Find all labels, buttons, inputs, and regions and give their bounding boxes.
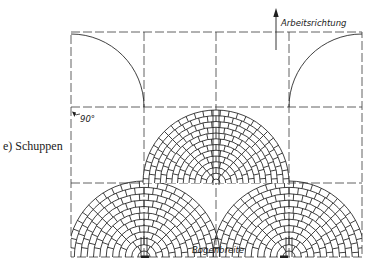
fan-joint — [248, 193, 251, 198]
fan-joint — [314, 252, 320, 253]
direction-label: Arbeitsrichtung — [280, 18, 347, 28]
fan-joint — [125, 224, 128, 230]
fan-joint — [284, 207, 285, 213]
fan-joint — [135, 188, 136, 194]
fan-joint — [185, 239, 191, 241]
fan-joint — [162, 235, 166, 239]
fan-joint — [311, 230, 315, 234]
fan-joint — [121, 212, 124, 218]
fan-joint — [322, 198, 325, 203]
fan-joint — [107, 233, 112, 236]
fan-joint — [345, 225, 351, 228]
fan-joint — [138, 246, 141, 252]
fan-joint — [252, 233, 257, 236]
fan-joint — [181, 193, 184, 198]
scale-arcs — [68, 34, 365, 257]
fan-joint — [177, 198, 180, 203]
fan-joint — [350, 220, 356, 223]
fan-joint — [155, 229, 158, 235]
fan-joint — [293, 213, 294, 219]
fan-joint — [121, 185, 123, 191]
fan-joint — [301, 208, 303, 214]
fan-joint — [182, 230, 187, 233]
fan-joint — [246, 230, 251, 233]
fan-joint — [237, 221, 242, 225]
fan-joint — [130, 182, 131, 188]
fan-joint — [279, 234, 281, 240]
fan-joint — [196, 217, 201, 221]
fan-joint — [265, 220, 268, 225]
fan-joint — [317, 202, 320, 208]
fan-joint — [313, 207, 316, 213]
fan-joint — [168, 207, 171, 213]
fan-joint — [105, 208, 109, 213]
fan-joint — [125, 190, 127, 196]
fan-joint — [247, 242, 253, 244]
fan-joint — [319, 188, 322, 194]
fan-joint — [218, 229, 224, 231]
fan-joint — [165, 198, 167, 204]
fan-joint — [186, 214, 191, 218]
fan-joint — [102, 218, 107, 222]
fan-joint — [227, 225, 233, 228]
fan-joint — [96, 226, 101, 229]
fan-joint — [156, 215, 158, 221]
fan-joint — [306, 190, 308, 196]
fan-joint — [148, 213, 149, 219]
fan-joint — [107, 223, 112, 227]
fan-joint — [116, 193, 119, 199]
fan-joint — [267, 235, 271, 239]
fan-joint — [293, 207, 294, 213]
fan-joint — [169, 193, 172, 199]
fan-joint — [69, 247, 75, 248]
fan-joint — [166, 230, 170, 234]
fan-joint — [292, 246, 295, 252]
fan-joint — [148, 226, 149, 232]
fan-joint — [73, 229, 79, 231]
fan-joint — [222, 220, 228, 223]
angle-label: 90° — [80, 114, 95, 124]
fan-joint — [327, 230, 332, 233]
fan-joint — [112, 202, 115, 208]
fan-joint — [89, 243, 95, 245]
fan-joint — [234, 205, 239, 209]
fan-joint — [229, 238, 235, 240]
fan-joint — [152, 201, 153, 207]
fan-joint — [238, 209, 243, 213]
fan-joint — [175, 212, 179, 217]
fan-joint — [257, 188, 260, 194]
fan-joint — [333, 198, 337, 203]
fan-joint — [336, 221, 341, 225]
fan-joint — [305, 203, 307, 209]
fan-joint — [180, 242, 186, 244]
fan-joint — [160, 224, 163, 230]
fan-joint — [151, 234, 153, 240]
right-angle-arrowhead-icon — [72, 112, 76, 118]
fan-joint — [164, 220, 167, 225]
fan-joint — [126, 203, 128, 209]
fan-joint — [156, 208, 158, 214]
fan-joint — [259, 217, 263, 222]
fan-joint — [177, 223, 182, 227]
fan-joint — [232, 230, 238, 233]
fan-joint — [341, 217, 346, 221]
fan-joint — [228, 212, 233, 216]
fan-joint — [335, 209, 340, 213]
fan-joint — [117, 207, 120, 213]
fan-joint — [330, 239, 336, 241]
fan-joint — [340, 230, 346, 233]
fan-joint — [311, 243, 317, 246]
fan-joint — [92, 221, 97, 225]
fan-joint — [345, 248, 351, 249]
fan-joint — [351, 243, 357, 244]
fan-joint — [329, 203, 333, 208]
fan-joint — [157, 239, 161, 243]
fan-joint — [93, 209, 98, 213]
fan-joint — [179, 208, 183, 213]
fan-joint — [204, 234, 210, 236]
fan-joint — [221, 243, 227, 244]
fan-joint — [92, 234, 98, 237]
fan-joint — [266, 185, 268, 191]
fan-joint — [113, 226, 117, 230]
fan-joint — [245, 203, 249, 208]
